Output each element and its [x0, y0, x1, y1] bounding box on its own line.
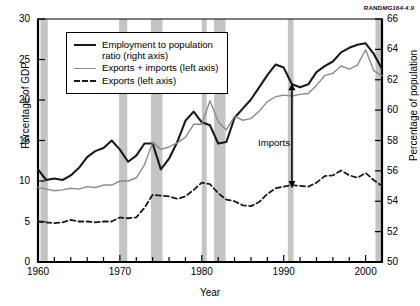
imports-annotation-label: Imports	[258, 137, 290, 148]
y-tick-label-left: 20	[4, 94, 30, 105]
x-tick-label: 2000	[346, 266, 386, 277]
legend-label-exports: Exports (left axis)	[102, 75, 176, 86]
y-tick-label-left: 15	[4, 135, 30, 146]
legend-key-dashed-black-icon	[73, 75, 97, 87]
chart-figure: RANDMG164-4.9 Percentage of GDP Percenta…	[0, 0, 420, 306]
legend-item-employment: Employment to populationratio (right axi…	[73, 39, 219, 61]
series-line	[38, 170, 382, 223]
y-tick-label-left: 25	[4, 54, 30, 65]
y-tick-label-right: 64	[387, 43, 413, 54]
legend-key-solid-gray-icon	[73, 62, 97, 74]
y-tick-label-right: 52	[387, 226, 413, 237]
x-tick-label: 1990	[264, 266, 304, 277]
y-axis-left-label: Percentage of GDP	[20, 21, 31, 191]
legend-item-exports-imports: Exports + imports (left axis)	[73, 62, 219, 74]
chart-legend: Employment to populationratio (right axi…	[66, 32, 228, 94]
legend-key-solid-black-icon	[73, 39, 97, 51]
y-tick-label-right: 54	[387, 195, 413, 206]
x-tick-label: 1960	[18, 266, 58, 277]
y-tick-label-left: 30	[4, 13, 30, 24]
y-tick-label-right: 60	[387, 104, 413, 115]
y-tick-label-right: 66	[387, 13, 413, 24]
x-axis-label: Year	[0, 287, 420, 298]
y-tick-label-right: 58	[387, 135, 413, 146]
y-tick-label-left: 5	[4, 216, 30, 227]
legend-item-exports: Exports (left axis)	[73, 75, 219, 87]
y-tick-label-right: 56	[387, 165, 413, 176]
y-tick-label-left: 10	[4, 175, 30, 186]
y-tick-label-right: 50	[387, 256, 413, 267]
y-tick-label-right: 62	[387, 74, 413, 85]
legend-label-employment: Employment to populationratio (right axi…	[102, 39, 213, 61]
legend-label-exports-imports: Exports + imports (left axis)	[102, 62, 219, 73]
x-tick-label: 1980	[182, 266, 222, 277]
x-tick-label: 1970	[100, 266, 140, 277]
